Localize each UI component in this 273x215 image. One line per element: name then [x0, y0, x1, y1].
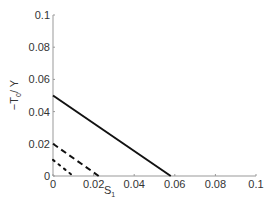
series: [53, 96, 171, 177]
svg-text:0: 0: [50, 178, 56, 190]
svg-text:0.06: 0.06: [29, 73, 50, 85]
svg-text:0.1: 0.1: [248, 178, 263, 190]
svg-text:0.1: 0.1: [35, 9, 50, 21]
y-axis-label: −T0/ Y: [8, 79, 22, 110]
svg-text:0.02: 0.02: [29, 138, 50, 150]
svg-text:0.02: 0.02: [83, 178, 104, 190]
svg-text:0.04: 0.04: [29, 106, 50, 118]
chart: 00.020.040.060.080.1 00.020.040.060.080.…: [0, 0, 273, 215]
series-solid: [53, 96, 171, 177]
svg-text:0.04: 0.04: [123, 178, 144, 190]
series-dotted: [53, 160, 73, 176]
svg-text:0.06: 0.06: [164, 178, 185, 190]
series-dashed: [53, 144, 99, 176]
axes: [53, 15, 256, 176]
x-axis-label: S1: [104, 184, 115, 198]
svg-text:0.08: 0.08: [205, 178, 226, 190]
svg-text:0.08: 0.08: [29, 41, 50, 53]
y-ticks: 00.020.040.060.080.1: [29, 9, 55, 182]
